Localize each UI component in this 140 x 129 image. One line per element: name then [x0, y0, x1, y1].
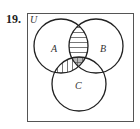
label-a: A [50, 43, 58, 54]
label-b: B [100, 43, 106, 54]
venn-diagram: U A B C [0, 0, 140, 129]
universe-label: U [30, 14, 38, 25]
label-c: C [75, 80, 82, 91]
